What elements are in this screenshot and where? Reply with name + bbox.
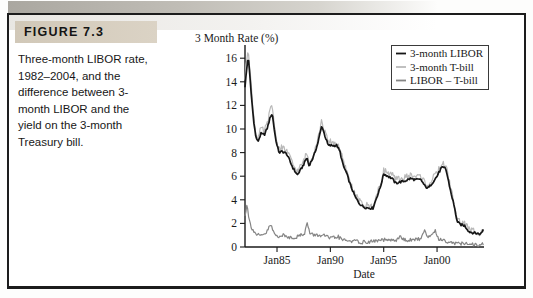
- x-axis-title: Date: [353, 268, 375, 280]
- x-tick-label: Jan00: [424, 254, 451, 266]
- y-axis-title: 3 Month Rate (%): [195, 32, 279, 45]
- y-tick-label: 4: [231, 194, 237, 206]
- y-tick-label: 0: [231, 241, 237, 253]
- figure-box: FIGURE 7.3 Three-month LIBOR rate, 1982–…: [7, 13, 526, 289]
- series-line-libor-t-bill: [245, 205, 483, 246]
- y-tick-label: 16: [226, 52, 238, 64]
- x-tick-label: Jan85: [264, 254, 291, 266]
- y-tick-label: 8: [231, 147, 237, 159]
- y-tick-label: 6: [231, 170, 237, 182]
- y-tick-label: 12: [226, 99, 238, 111]
- y-tick-label: 2: [231, 217, 237, 229]
- legend: 3-month LIBOR 3-month T-bill LIBOR – T-b…: [392, 46, 489, 90]
- legend-label-spread: LIBOR – T-bill: [410, 74, 478, 86]
- chart: 3 Month Rate (%) 0246810121416Jan85Jan90…: [9, 15, 524, 286]
- y-tick-label: 14: [226, 76, 238, 88]
- x-tick-label: Jan90: [317, 254, 344, 266]
- page-edge-shading: [8, 1, 438, 13]
- y-tick-label: 10: [226, 123, 238, 135]
- legend-label-tbill: 3-month T-bill: [410, 61, 474, 73]
- x-tick-label: Jan95: [370, 254, 397, 266]
- legend-label-libor: 3-month LIBOR: [410, 47, 484, 59]
